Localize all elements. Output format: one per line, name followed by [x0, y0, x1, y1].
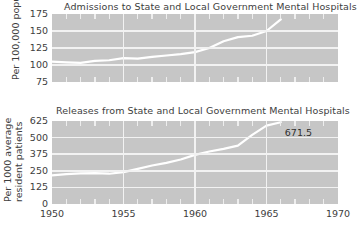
axis-tick-mark: [252, 14, 253, 19]
axis-tick-mark: [294, 14, 295, 19]
axis-tick-mark: [166, 199, 167, 204]
axis-tick-mark: [109, 77, 110, 82]
axis-tick-mark: [151, 77, 152, 82]
axis-tick-mark: [323, 77, 324, 82]
axis-tick-mark: [66, 14, 67, 19]
axis-tick-mark: [280, 77, 281, 82]
axis-tick-mark: [252, 77, 253, 82]
gridline-vertical: [123, 121, 125, 204]
chart-panel-admissions: Admissions to State and Local Government…: [0, 0, 345, 104]
axis-tick-mark: [66, 121, 67, 126]
axis-tick-mark: [109, 121, 110, 126]
y-axis-label-releases-line1: Per 1000 average: [2, 118, 13, 202]
x-axis-tick-label: 1970: [318, 208, 358, 219]
axis-tick-mark: [323, 121, 324, 126]
axis-tick-mark: [223, 121, 224, 126]
axis-tick-mark: [223, 77, 224, 82]
axis-tick-mark: [151, 199, 152, 204]
y-axis-tick-label: 250: [14, 165, 48, 176]
axis-tick-mark: [209, 14, 210, 19]
gridline-vertical: [266, 121, 268, 204]
x-axis-tick-label: 1950: [32, 208, 72, 219]
gridline-vertical: [266, 14, 268, 82]
y-axis-tick-label: 75: [14, 76, 48, 87]
axis-tick-mark: [223, 199, 224, 204]
gridline-vertical: [194, 121, 196, 204]
axis-tick-mark: [66, 199, 67, 204]
chart-title-releases: Releases from State and Local Government…: [56, 105, 350, 116]
axis-tick-mark: [151, 14, 152, 19]
axis-tick-mark: [294, 121, 295, 126]
axis-tick-mark: [252, 199, 253, 204]
x-axis-tick-label: 1960: [175, 208, 215, 219]
axis-tick-mark: [166, 77, 167, 82]
axis-tick-mark: [209, 77, 210, 82]
axis-tick-mark: [309, 199, 310, 204]
axis-tick-mark: [137, 77, 138, 82]
y-axis-tick-label: 125: [14, 42, 48, 53]
chart-panel-releases: Releases from State and Local Government…: [0, 104, 345, 230]
axis-tick-mark: [209, 121, 210, 126]
axis-tick-mark: [294, 77, 295, 82]
axis-tick-mark: [323, 199, 324, 204]
axis-tick-mark: [309, 77, 310, 82]
y-axis-tick-label: 150: [14, 25, 48, 36]
axis-tick-mark: [80, 199, 81, 204]
axis-tick-mark: [309, 121, 310, 126]
axis-tick-mark: [109, 199, 110, 204]
y-axis-tick-label: 625: [14, 115, 48, 126]
y-axis-tick-label: 375: [14, 148, 48, 159]
gridline-vertical: [194, 14, 196, 82]
axis-tick-mark: [151, 121, 152, 126]
axis-tick-mark: [137, 199, 138, 204]
axis-tick-mark: [280, 199, 281, 204]
chart-title-admissions: Admissions to State and Local Government…: [64, 1, 357, 12]
axis-tick-mark: [137, 14, 138, 19]
y-axis-tick-label: 175: [14, 8, 48, 19]
axis-tick-mark: [80, 77, 81, 82]
axis-tick-mark: [237, 199, 238, 204]
axis-tick-mark: [237, 14, 238, 19]
axis-tick-mark: [180, 14, 181, 19]
data-label-671-5: 671.5: [285, 127, 312, 138]
axis-tick-mark: [237, 121, 238, 126]
axis-tick-mark: [209, 199, 210, 204]
axis-tick-mark: [94, 14, 95, 19]
axis-tick-mark: [294, 199, 295, 204]
x-axis-tick-label: 1955: [104, 208, 144, 219]
y-axis-tick-label: 100: [14, 59, 48, 70]
axis-tick-mark: [166, 14, 167, 19]
axis-tick-mark: [166, 121, 167, 126]
axis-tick-mark: [80, 14, 81, 19]
axis-tick-mark: [309, 14, 310, 19]
axis-tick-mark: [180, 121, 181, 126]
x-axis-tick-label: 1965: [247, 208, 287, 219]
y-axis-tick-label: 125: [14, 181, 48, 192]
plot-area-admissions: [52, 14, 338, 82]
axis-tick-mark: [137, 121, 138, 126]
axis-tick-mark: [109, 14, 110, 19]
axis-tick-mark: [94, 77, 95, 82]
axis-tick-mark: [94, 199, 95, 204]
axis-tick-mark: [180, 199, 181, 204]
axis-tick-mark: [280, 121, 281, 126]
axis-tick-mark: [237, 77, 238, 82]
y-axis-tick-label: 500: [14, 132, 48, 143]
axis-tick-mark: [323, 14, 324, 19]
gridline-vertical: [123, 14, 125, 82]
axis-tick-mark: [94, 121, 95, 126]
axis-tick-mark: [280, 14, 281, 19]
axis-tick-mark: [80, 121, 81, 126]
axis-tick-mark: [180, 77, 181, 82]
axis-tick-mark: [252, 121, 253, 126]
axis-tick-mark: [66, 77, 67, 82]
axis-tick-mark: [223, 14, 224, 19]
